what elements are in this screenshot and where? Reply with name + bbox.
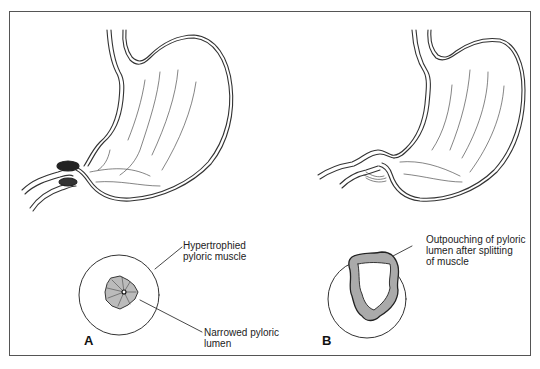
illustration	[0, 0, 540, 369]
split-muscle-b	[366, 172, 384, 177]
label-hypertrophied-pyloric-muscle: Hypertrophied pyloric muscle	[183, 240, 246, 262]
panel-letter-a: A	[84, 333, 93, 348]
pyloric-muscle-upper-a	[57, 161, 79, 171]
panel-letter-b: B	[322, 333, 331, 348]
leader-line-outpouching	[393, 246, 412, 256]
stomach-b	[318, 30, 525, 201]
leader-line-muscle	[155, 247, 182, 269]
pyloric-muscle-lower-a	[59, 178, 77, 186]
label-outpouching-pyloric-lumen: Outpouching of pyloric lumen after split…	[426, 234, 526, 267]
leader-line-lumen	[140, 300, 202, 332]
label-narrowed-pyloric-lumen: Narrowed pyloric lumen	[204, 327, 279, 349]
stomach-a	[22, 30, 233, 211]
